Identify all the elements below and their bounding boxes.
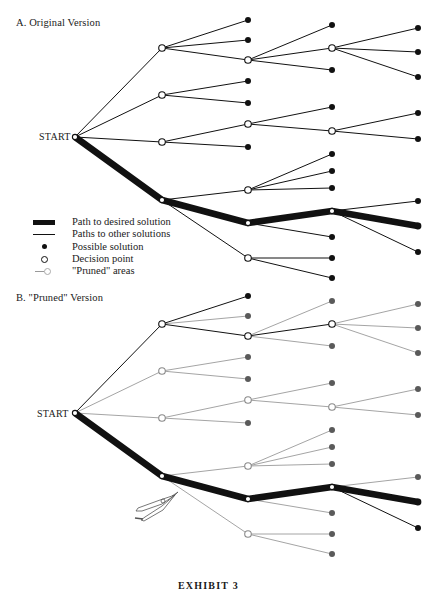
decision-point-icon (159, 415, 166, 422)
figure-caption: EXHIBIT 3 (178, 580, 239, 591)
branch-line (162, 418, 248, 423)
decision-point-icon (159, 321, 166, 328)
open-circle-icon (30, 253, 58, 265)
possible-solution-dot-icon (245, 313, 251, 319)
legend-item-decision-point: Decision point (30, 253, 171, 265)
legend: Path to desired solution Paths to other … (30, 216, 171, 277)
branch-line (332, 389, 418, 407)
decision-point-icon (245, 463, 252, 470)
branch-line (248, 534, 332, 554)
desired-solution-dot-icon (415, 499, 422, 506)
branch-line (332, 304, 418, 324)
possible-solution-dot-icon (329, 343, 335, 349)
branch-line (332, 477, 418, 487)
decision-point-icon (245, 397, 252, 404)
possible-solution-dot-icon (245, 293, 251, 299)
decision-point-icon (329, 321, 336, 328)
decision-point-icon (329, 404, 336, 411)
branch-line (332, 324, 418, 328)
branch-line (248, 430, 332, 466)
possible-solution-dot-icon (415, 525, 421, 531)
pruned-tree-group (72, 293, 421, 557)
possible-solution-dot-icon (415, 350, 421, 356)
legend-item-desired-path: Path to desired solution (30, 216, 171, 228)
branch-line (75, 324, 162, 413)
decision-point-icon (159, 473, 164, 478)
legend-label: Possible solution (72, 241, 143, 253)
legend-item-other-paths: Paths to other solutions (30, 228, 171, 240)
legend-label: Path to desired solution (72, 216, 171, 228)
branch-line (75, 413, 162, 418)
decision-point-icon (245, 531, 252, 538)
branch-line (248, 324, 332, 336)
branch-line (162, 400, 248, 418)
legend-label: Decision point (72, 253, 134, 265)
legend-item-pruned-areas: "Pruned" areas (30, 265, 171, 277)
branch-line (162, 324, 248, 336)
possible-solution-dot-icon (415, 325, 421, 331)
branch-line (248, 499, 332, 513)
legend-item-possible-solution: Possible solution (30, 241, 171, 253)
possible-solution-dot-icon (245, 376, 251, 382)
decision-point-icon (329, 484, 334, 489)
possible-solution-dot-icon (329, 461, 335, 467)
branch-line (248, 336, 332, 346)
legend-label: "Pruned" areas (72, 265, 135, 277)
possible-solution-dot-icon (329, 444, 335, 450)
branch-line (332, 324, 418, 353)
pruning-shears-icon (135, 492, 178, 521)
pruned-branch-icon (30, 265, 58, 277)
decision-point-icon (245, 496, 250, 501)
branch-line (248, 400, 332, 407)
decision-point-icon (159, 368, 166, 375)
branch-line (248, 383, 332, 400)
possible-solution-dot-icon (329, 551, 335, 557)
branch-line (332, 407, 418, 415)
decision-point-icon (245, 333, 252, 340)
possible-solution-dot-icon (329, 298, 335, 304)
decision-point-icon (72, 410, 77, 415)
branch-line (248, 301, 332, 336)
desired-solution-path (75, 413, 418, 502)
possible-solution-dot-icon (245, 354, 251, 360)
filled-dot-icon (30, 241, 58, 253)
branch-line (162, 371, 248, 379)
possible-solution-dot-icon (329, 427, 335, 433)
branch-line (248, 464, 332, 466)
legend-label: Paths to other solutions (72, 228, 170, 240)
possible-solution-dot-icon (329, 531, 335, 537)
thick-line-icon (30, 216, 58, 228)
branch-line (162, 466, 248, 476)
possible-solution-dot-icon (415, 474, 421, 480)
possible-solution-dot-icon (415, 412, 421, 418)
branch-line (248, 447, 332, 466)
branch-line (162, 357, 248, 371)
possible-solution-dot-icon (245, 420, 251, 426)
thin-line-icon (30, 228, 58, 240)
possible-solution-dot-icon (415, 386, 421, 392)
branch-line (75, 371, 162, 413)
possible-solution-dot-icon (329, 510, 335, 516)
possible-solution-dot-icon (415, 301, 421, 307)
possible-solution-dot-icon (329, 380, 335, 386)
